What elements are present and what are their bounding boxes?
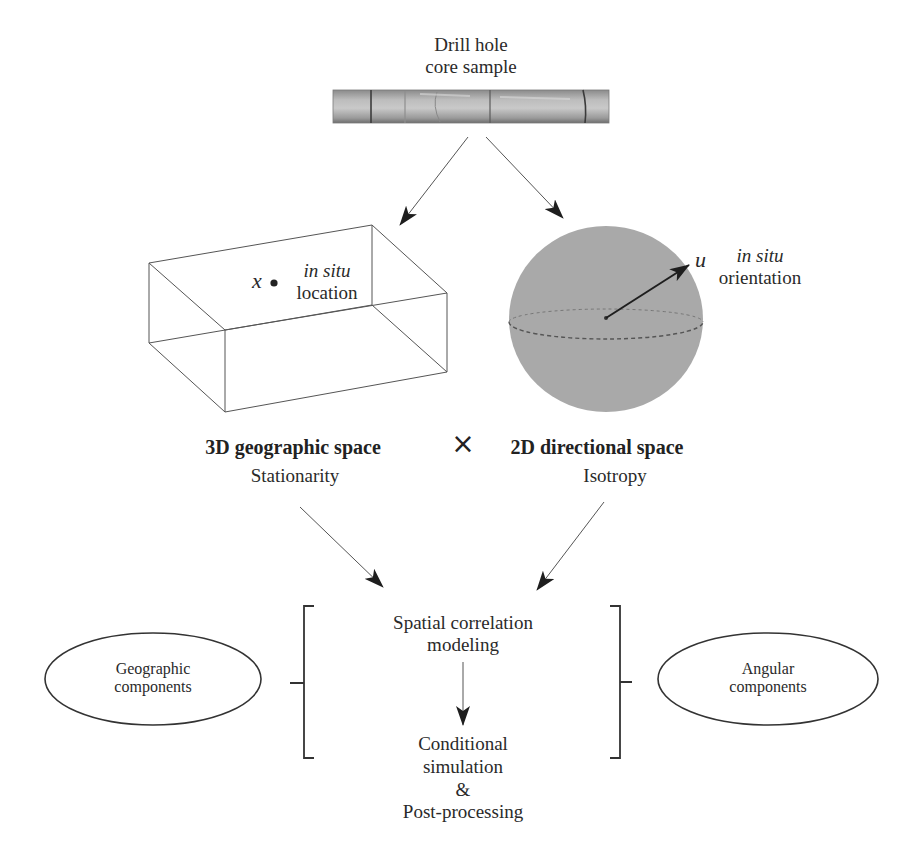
simulation-postprocessing-step: Conditional simulation & Post-processing (363, 733, 563, 824)
step2-line3: & (363, 779, 563, 802)
core-sample-image (333, 90, 609, 123)
location-variable-x: x (252, 268, 262, 293)
isotropy-label: Isotropy (560, 465, 670, 487)
location-note-italic: in situ (282, 260, 372, 282)
location-point-icon (270, 279, 277, 286)
geographic-components-label: Geographic components (73, 660, 233, 697)
angular-components-line2: components (688, 678, 848, 696)
arrow-stationarity-to-workflow (300, 507, 383, 587)
geographic-space-label: 3D geographic space (198, 436, 388, 459)
orientation-variable-u: u (695, 247, 706, 272)
arrow-core-to-geographic (400, 137, 468, 225)
angular-components-line1: Angular (688, 660, 848, 678)
right-bracket (610, 606, 632, 758)
geographic-components-line1: Geographic (73, 660, 233, 678)
orientation-note-italic: in situ (710, 245, 810, 267)
arrow-core-to-directional (486, 137, 563, 218)
step2-line2: simulation (363, 756, 563, 779)
orientation-sphere-icon (509, 226, 703, 412)
step2-line4: Post-processing (363, 801, 563, 824)
orientation-note: in situ orientation (710, 245, 810, 289)
stationarity-label: Stationarity (220, 465, 370, 487)
location-note-plain: location (282, 282, 372, 304)
angular-components-label: Angular components (688, 660, 848, 697)
geographic-box-icon (149, 225, 447, 412)
step2-line1: Conditional (363, 733, 563, 756)
cartesian-product-symbol: × (443, 428, 483, 460)
core-sample-title: Drill hole core sample (371, 34, 571, 78)
arrow-isotropy-to-workflow (537, 502, 604, 590)
geographic-components-line2: components (73, 678, 233, 696)
orientation-note-plain: orientation (710, 267, 810, 289)
core-sample-title-line1: Drill hole (371, 34, 571, 56)
left-bracket (290, 606, 314, 758)
step1-line2: modeling (363, 634, 563, 656)
directional-space-label: 2D directional space (502, 436, 692, 459)
location-note: in situ location (282, 260, 372, 304)
spatial-correlation-modeling-step: Spatial correlation modeling (363, 612, 563, 656)
core-sample-title-line2: core sample (371, 56, 571, 78)
workflow-diagram: Drill hole core sample x in situ locatio… (0, 0, 920, 863)
step1-line1: Spatial correlation (363, 612, 563, 634)
